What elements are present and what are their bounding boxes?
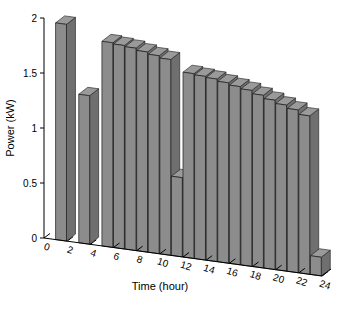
y-tick-label: 0.5 bbox=[23, 178, 37, 189]
bar-front bbox=[195, 75, 206, 260]
bar-front bbox=[229, 85, 240, 265]
x-axis-title: Time (hour) bbox=[132, 280, 188, 292]
bar-front bbox=[114, 44, 125, 249]
y-tick-label: 1.5 bbox=[23, 68, 37, 79]
bar-front bbox=[218, 81, 229, 263]
bar-front bbox=[183, 72, 194, 258]
bar-side bbox=[310, 109, 319, 274]
bar-front bbox=[287, 108, 298, 272]
bar-front bbox=[276, 104, 287, 272]
bar-front bbox=[264, 99, 275, 270]
bar-front bbox=[206, 78, 217, 262]
bar-front bbox=[310, 256, 321, 276]
chart-figure: 00.511.52024681012141618202224 Power (kW… bbox=[0, 0, 337, 318]
bar bbox=[299, 107, 319, 274]
bar-front bbox=[171, 176, 182, 257]
y-tick-label: 2 bbox=[31, 13, 37, 24]
y-tick-label: 0 bbox=[31, 233, 37, 244]
y-axis-title: Power (kW) bbox=[4, 99, 16, 156]
bar-front bbox=[160, 58, 171, 255]
bar-front bbox=[241, 89, 252, 266]
bar-front bbox=[79, 94, 90, 244]
chart-canvas: 00.511.52024681012141618202224 Power (kW… bbox=[0, 0, 337, 318]
bar-side bbox=[90, 89, 99, 245]
bar-front bbox=[102, 41, 113, 247]
bar bbox=[79, 87, 99, 244]
bar-front bbox=[125, 47, 136, 251]
bar-front bbox=[56, 23, 67, 241]
bar-front bbox=[253, 94, 264, 268]
y-tick-label: 1 bbox=[31, 123, 37, 134]
bar-front bbox=[148, 54, 159, 253]
bar-front bbox=[299, 114, 310, 274]
bar-side bbox=[66, 17, 75, 241]
bar-front bbox=[137, 50, 148, 252]
bar bbox=[56, 16, 76, 241]
